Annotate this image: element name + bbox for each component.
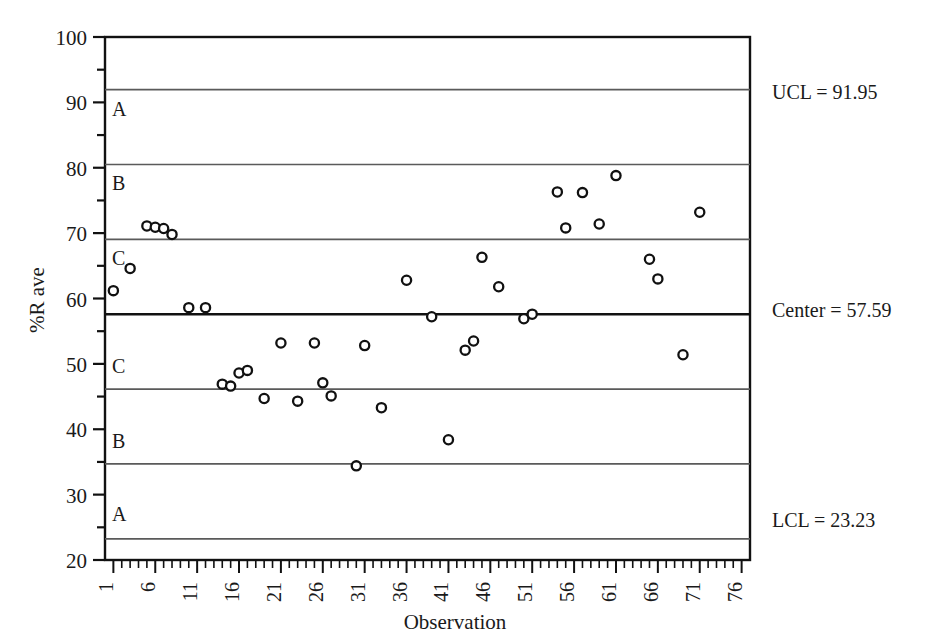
data-point — [477, 253, 486, 262]
data-point — [461, 346, 470, 355]
data-point — [444, 435, 453, 444]
x-tick-label: 1 — [95, 582, 117, 592]
data-point — [201, 303, 210, 312]
data-point — [352, 461, 361, 470]
data-point — [611, 171, 620, 180]
x-tick-label: 11 — [179, 582, 201, 601]
x-axis-labels: 161116212631364146515661667176 — [95, 582, 745, 602]
y-tick-label: 20 — [66, 549, 87, 573]
data-point — [678, 350, 687, 359]
data-point — [402, 276, 411, 285]
x-tick-label: 41 — [430, 582, 452, 602]
data-point — [360, 341, 369, 350]
x-tick-label: 46 — [472, 582, 494, 602]
data-point — [377, 403, 386, 412]
data-point — [318, 378, 327, 387]
data-point — [553, 187, 562, 196]
data-point — [653, 274, 662, 283]
x-tick-label: 51 — [514, 582, 536, 602]
data-point — [528, 310, 537, 319]
zone-letter: C — [112, 355, 125, 377]
zone-letter: C — [112, 247, 125, 269]
x-tick-label: 26 — [305, 582, 327, 602]
data-point — [578, 188, 587, 197]
data-point — [159, 224, 168, 233]
data-point — [293, 397, 302, 406]
ucl-annotation: UCL = 91.95 — [772, 81, 878, 103]
x-tick-label: 56 — [556, 582, 578, 602]
control-chart: 2030405060708090100 ABCCBA 1611162126313… — [0, 0, 931, 641]
y-tick-label: 90 — [66, 91, 87, 115]
data-point — [260, 394, 269, 403]
x-tick-label: 36 — [389, 582, 411, 602]
data-point — [561, 223, 570, 232]
x-tick-label: 71 — [682, 582, 704, 602]
x-tick-label: 21 — [263, 582, 285, 602]
data-point — [167, 230, 176, 239]
data-point — [327, 391, 336, 400]
y-tick-label: 30 — [66, 484, 87, 508]
y-tick-label: 50 — [66, 353, 87, 377]
x-axis-title: Observation — [404, 610, 507, 634]
x-tick-label: 31 — [347, 582, 369, 602]
control-chart-svg: 2030405060708090100 ABCCBA 1611162126313… — [0, 0, 931, 641]
data-point — [184, 303, 193, 312]
x-tick-label: 6 — [137, 582, 159, 592]
zone-letter: B — [112, 172, 125, 194]
lcl-annotation: LCL = 23.23 — [772, 509, 875, 531]
data-point — [494, 282, 503, 291]
data-point — [243, 366, 252, 375]
data-point — [109, 286, 118, 295]
x-tick-label: 61 — [598, 582, 620, 602]
x-tick-label: 66 — [640, 582, 662, 602]
data-point — [126, 264, 135, 273]
plot-frame — [105, 37, 750, 560]
y-tick-label: 100 — [56, 26, 88, 50]
data-point — [276, 338, 285, 347]
y-tick-label: 40 — [66, 418, 87, 442]
center-annotation: Center = 57.59 — [772, 299, 892, 321]
zone-letter: A — [112, 98, 127, 120]
y-axis-title: %R ave — [25, 267, 49, 333]
zone-letter: B — [112, 430, 125, 452]
x-tick-label: 16 — [221, 582, 243, 602]
data-point — [310, 338, 319, 347]
y-tick-label: 70 — [66, 222, 87, 246]
data-point — [427, 312, 436, 321]
y-tick-label: 80 — [66, 157, 87, 181]
y-tick-label: 60 — [66, 288, 87, 312]
x-axis-ticks — [113, 560, 741, 573]
data-point — [645, 255, 654, 264]
zone-letter: A — [112, 503, 127, 525]
y-axis-ticks — [93, 37, 105, 560]
data-point — [695, 208, 704, 217]
data-point — [469, 336, 478, 345]
data-point — [226, 382, 235, 391]
data-point — [595, 219, 604, 228]
y-axis-labels: 2030405060708090100 — [56, 26, 88, 573]
x-tick-label: 76 — [724, 582, 746, 602]
